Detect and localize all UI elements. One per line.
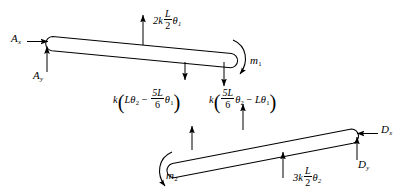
upper-bar — [46, 37, 238, 68]
lower-bar — [167, 129, 359, 178]
lower-bar-outline — [167, 129, 359, 178]
upper-bar-outline — [46, 37, 238, 68]
label-moment-m1: m1 — [250, 55, 262, 68]
label-Dx: Dx — [381, 124, 392, 137]
label-Ay: Ay — [33, 70, 43, 83]
label-moment-m2: m2 — [166, 170, 178, 183]
label-middle-left-force: k(Lθ2 − 5L6θ1) — [113, 89, 180, 114]
label-middle-right-force: k(5L6θ2 − Lθ1) — [209, 89, 276, 114]
label-Dy: Dy — [358, 159, 369, 172]
figure-canvas: Ax Ay 2kL2θ1 m1 k(Lθ2 − 5L6θ1) k(5L6θ2 −… — [0, 0, 408, 194]
label-top-spring-force: 2kL2θ1 — [153, 9, 181, 31]
label-Ax: Ax — [11, 33, 21, 46]
free-body-diagram-svg — [0, 0, 408, 194]
label-bottom-spring-force: 3kL2θ2 — [293, 166, 321, 188]
